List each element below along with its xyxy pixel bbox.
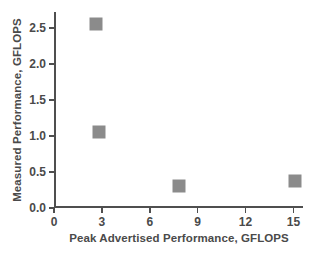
data-point-marker bbox=[89, 18, 102, 31]
data-point-marker bbox=[92, 126, 105, 139]
x-tick-label: 9 bbox=[194, 215, 201, 229]
x-tick-mark bbox=[101, 208, 103, 213]
y-tick-mark bbox=[49, 135, 54, 137]
y-tick-label: 1.5 bbox=[29, 93, 46, 107]
x-axis-title: Peak Advertised Performance, GFLOPS bbox=[54, 232, 304, 244]
x-axis-line bbox=[54, 206, 303, 208]
y-tick-mark bbox=[49, 63, 54, 65]
y-axis-line bbox=[54, 12, 56, 208]
data-point-marker bbox=[172, 179, 185, 192]
y-tick-label: 1.0 bbox=[29, 129, 46, 143]
x-tick-mark bbox=[53, 208, 55, 213]
y-tick-mark bbox=[49, 27, 54, 29]
y-axis-title: Measured Performance, GFLOPS bbox=[11, 5, 23, 215]
scatter-chart-figure: Measured Performance, GFLOPS Peak Advert… bbox=[0, 0, 322, 257]
y-tick-mark bbox=[49, 99, 54, 101]
x-tick-label: 0 bbox=[51, 215, 58, 229]
x-tick-label: 15 bbox=[287, 215, 300, 229]
y-tick-label: 0.5 bbox=[29, 165, 46, 179]
y-tick-mark bbox=[49, 171, 54, 173]
y-tick-label: 2.0 bbox=[29, 57, 46, 71]
x-tick-label: 12 bbox=[239, 215, 252, 229]
x-tick-mark bbox=[197, 208, 199, 213]
plot-area: 0.00.51.01.52.02.5 03691215 bbox=[54, 12, 303, 208]
x-tick-label: 6 bbox=[146, 215, 153, 229]
data-point-marker bbox=[289, 174, 302, 187]
x-tick-label: 3 bbox=[99, 215, 106, 229]
x-tick-mark bbox=[149, 208, 151, 213]
y-tick-label: 0.0 bbox=[29, 201, 46, 215]
x-tick-mark bbox=[245, 208, 247, 213]
x-tick-mark bbox=[293, 208, 295, 213]
y-tick-label: 2.5 bbox=[29, 21, 46, 35]
